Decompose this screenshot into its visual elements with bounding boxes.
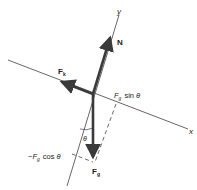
normal-force-arrow bbox=[93, 38, 110, 94]
gravity-force-label: Fg bbox=[92, 167, 100, 177]
normal-force-label: N bbox=[117, 38, 123, 47]
theta-arc bbox=[80, 128, 93, 130]
theta-label: θ bbox=[83, 135, 87, 142]
x-axis bbox=[8, 60, 188, 129]
free-body-diagram: x y N Fk Fg Fgsinθ −Fgcosθ θ bbox=[0, 0, 197, 190]
x-axis-label: x bbox=[188, 127, 194, 136]
friction-force-label: Fk bbox=[58, 67, 66, 77]
parallel-component-label: Fgsinθ bbox=[114, 91, 140, 101]
y-axis-label: y bbox=[116, 7, 122, 16]
friction-force-arrow bbox=[62, 82, 93, 94]
perpendicular-component-label: −Fgcosθ bbox=[28, 152, 61, 162]
dashed-line-parallel-to-y bbox=[95, 104, 116, 162]
